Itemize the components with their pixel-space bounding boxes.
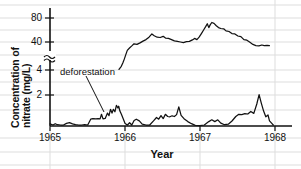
x-tick-label-1965: 1965 bbox=[30, 132, 70, 143]
y-tick-label-80: 80 bbox=[20, 12, 42, 23]
x-tick-label-1968: 1968 bbox=[255, 132, 295, 143]
y-tick-label-2: 2 bbox=[20, 89, 42, 100]
x-axis-title: Year bbox=[102, 148, 222, 160]
x-tick-label-1967: 1967 bbox=[180, 132, 220, 143]
nitrate-line-chart bbox=[0, 0, 301, 169]
y-axis-break-icon bbox=[44, 51, 56, 62]
series-low-range bbox=[50, 95, 273, 126]
deforestation-annotation-label: deforestation bbox=[60, 66, 115, 77]
x-tick-label-1966: 1966 bbox=[105, 132, 145, 143]
y-tick-label-40: 40 bbox=[20, 36, 42, 47]
y-tick-label-4: 4 bbox=[20, 64, 42, 75]
series-high-range bbox=[119, 23, 269, 70]
deforestation-leader-line bbox=[86, 76, 104, 112]
figure-root: Concentration of nitrate (mg/L) 80 40 4 … bbox=[0, 0, 301, 169]
